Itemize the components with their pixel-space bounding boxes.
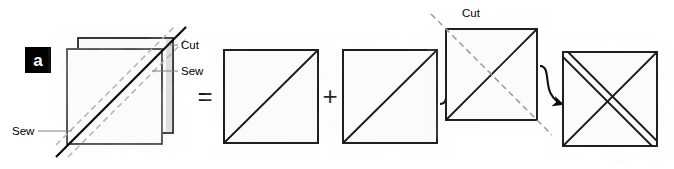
figure-container: a Cut Sew Sew xyxy=(0,0,674,169)
panel-badge: a xyxy=(25,47,51,73)
plus-operator: + xyxy=(322,81,337,111)
equals-operator: = xyxy=(197,81,212,111)
curved-arrow-right-down-icon xyxy=(540,66,562,104)
panel-badge-label: a xyxy=(33,51,43,70)
sew-label-right: Sew xyxy=(181,65,204,77)
step-half-square-unit-2 xyxy=(343,50,437,143)
step-stacked-squares: Cut Sew Sew xyxy=(12,27,204,157)
step-half-square-unit-1 xyxy=(224,50,318,143)
cut-label-step-three: Cut xyxy=(462,7,481,19)
cut-label-top: Cut xyxy=(181,39,200,51)
fabric-square-front xyxy=(67,49,162,144)
sew-label-left: Sew xyxy=(12,125,35,137)
fabric-square-back-shadow xyxy=(166,38,173,133)
step-quarter-square-unit xyxy=(563,52,657,146)
sew-and-cut-diagram: a Cut Sew Sew xyxy=(0,0,674,169)
step-crossed-square: Cut xyxy=(431,7,552,135)
